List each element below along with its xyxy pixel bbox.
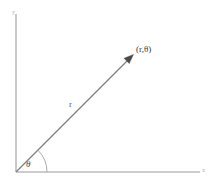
- x-axis-label: x: [202, 167, 205, 173]
- angle-label: θ: [26, 160, 30, 169]
- point-label: (r,θ): [136, 45, 151, 54]
- polar-coordinate-figure: y x (r,θ) r θ: [0, 0, 215, 187]
- y-axis-label: y: [12, 9, 15, 15]
- radius-ray: [16, 58, 130, 172]
- figure-canvas: [0, 0, 215, 187]
- radius-label: r: [69, 100, 72, 109]
- angle-arc: [38, 150, 47, 172]
